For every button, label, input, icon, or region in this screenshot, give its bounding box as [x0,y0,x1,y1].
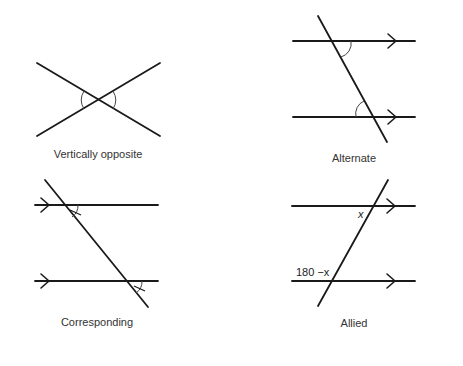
panel-alternate: Alternate [293,16,415,164]
panel-vertically-opposite: Vertically opposite [37,63,160,160]
angle-label-x: x [357,208,364,220]
angle-arc-left [81,91,84,109]
caption-allied: Allied [341,317,368,329]
transversal [45,180,148,307]
panel-corresponding: Corresponding [35,180,158,328]
angle-diagrams-canvas: Vertically opposite Alternate Correspond… [0,0,463,366]
angle-arc-bottom [356,101,364,117]
angle-label-180-minus-x: 180 −x [296,266,330,278]
panel-allied: x 180 −x Allied [292,180,415,329]
angle-arc-top [341,41,351,57]
transversal [318,180,388,306]
angle-arc-right [113,91,116,109]
caption-alternate: Alternate [332,152,376,164]
transversal [318,16,387,142]
caption-vertically-opposite: Vertically opposite [54,148,143,160]
caption-corresponding: Corresponding [61,316,133,328]
